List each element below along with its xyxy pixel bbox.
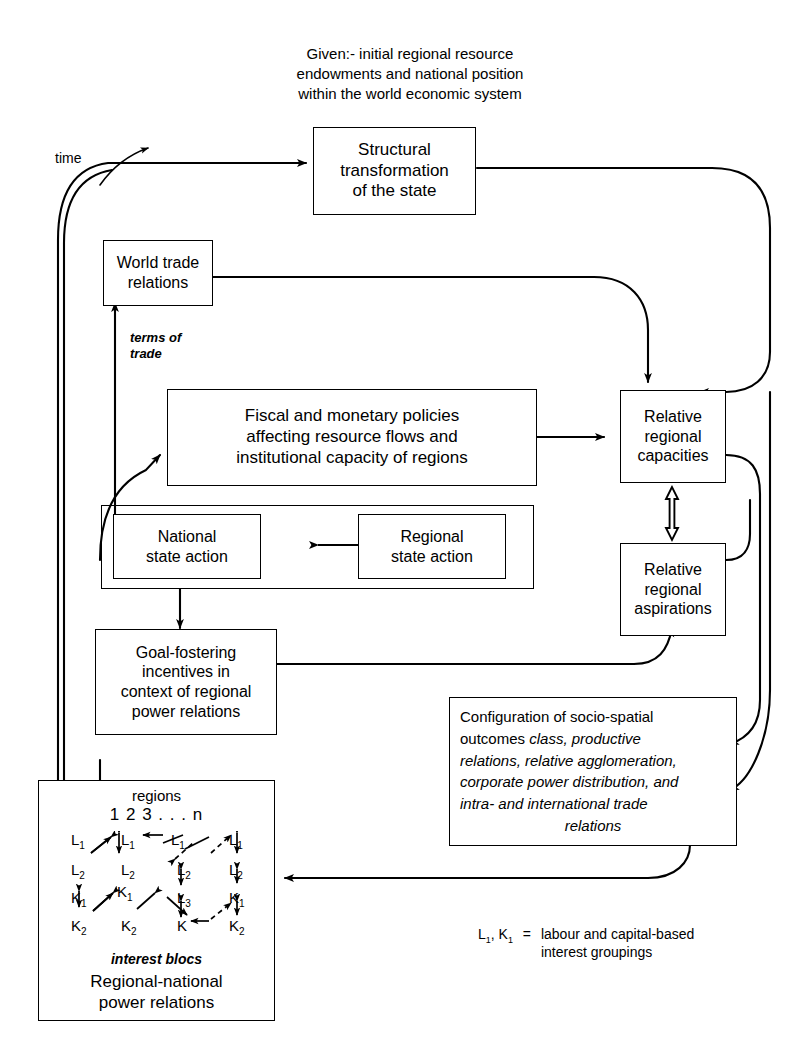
matrix-symbol: K1 bbox=[117, 883, 133, 903]
matrix-symbol: L1 bbox=[71, 831, 85, 851]
matrix-symbol: L2 bbox=[177, 861, 191, 881]
interest-blocs-label: interest blocs bbox=[39, 951, 274, 967]
box-relative-regional-capacities-label: Relative regional capacities bbox=[633, 406, 712, 467]
box-relative-regional-aspirations-label: Relative regional aspirations bbox=[630, 559, 715, 620]
matrix-symbol: L2 bbox=[229, 861, 243, 881]
box-world-trade-relations-label: World trade relations bbox=[113, 252, 203, 293]
regions-title: regions bbox=[39, 787, 274, 804]
configuration-line-1: Configuration of socio-spatial bbox=[460, 706, 726, 728]
configuration-line-3: relations, relative agglomeration, bbox=[460, 750, 726, 772]
configuration-line-4: corporate power distribution, and bbox=[460, 771, 726, 793]
regions-numbers: 1 2 3 . . . n bbox=[39, 805, 274, 825]
box-regional-state-action[interactable]: Regional state action bbox=[358, 514, 506, 579]
configuration-line-2-italic: class, productive bbox=[529, 730, 641, 747]
box-configuration-outcomes[interactable]: Configuration of socio-spatial outcomes … bbox=[449, 697, 737, 846]
matrix-symbol: L2 bbox=[121, 861, 135, 881]
matrix-symbol: L3 bbox=[177, 889, 191, 909]
box-regional-state-action-label: Regional state action bbox=[387, 526, 477, 567]
matrix-symbol: K2 bbox=[71, 917, 87, 937]
interest-blocs-matrix: L1L1L1L1L2L2L2L2K1K1L3K1K2K2KK2 bbox=[59, 831, 259, 949]
box-regional-national-power-relations[interactable]: regions 1 2 3 . . . n bbox=[38, 780, 275, 1021]
diagram-canvas: Given:- initial regional resource endowm… bbox=[0, 0, 811, 1056]
box-fiscal-monetary-policies-label: Fiscal and monetary policies affecting r… bbox=[232, 405, 472, 469]
box-national-state-action[interactable]: National state action bbox=[113, 514, 261, 579]
configuration-line-6: relations bbox=[460, 815, 726, 837]
box-world-trade-relations[interactable]: World trade relations bbox=[103, 240, 213, 306]
matrix-symbol: L2 bbox=[71, 861, 85, 881]
matrix-symbol: K2 bbox=[121, 917, 137, 937]
time-label: time bbox=[55, 150, 81, 166]
box-relative-regional-capacities[interactable]: Relative regional capacities bbox=[620, 390, 726, 483]
box-structural-transformation[interactable]: Structural transformation of the state bbox=[313, 127, 476, 215]
configuration-line-5: intra- and international trade bbox=[460, 793, 726, 815]
legend-equals: = bbox=[523, 926, 531, 942]
box-fiscal-monetary-policies[interactable]: Fiscal and monetary policies affecting r… bbox=[167, 389, 537, 486]
matrix-symbol: K1 bbox=[71, 889, 87, 909]
box-regional-national-power-relations-label: Regional-national power relations bbox=[39, 971, 274, 1014]
matrix-symbol: K2 bbox=[229, 917, 245, 937]
matrix-symbol: L1 bbox=[229, 831, 243, 851]
legend: L1, K1 = labour and capital-based intere… bbox=[478, 925, 694, 961]
legend-symbol-L: L1 bbox=[478, 926, 491, 942]
box-goal-fostering-incentives[interactable]: Goal-fostering incentives in context of … bbox=[95, 629, 277, 735]
legend-symbol-K: K1 bbox=[499, 926, 513, 942]
configuration-line-2-plain: outcomes bbox=[460, 730, 529, 747]
box-structural-transformation-label: Structural transformation of the state bbox=[336, 139, 453, 203]
terms-of-trade-label: terms of trade bbox=[130, 330, 181, 363]
box-relative-regional-aspirations[interactable]: Relative regional aspirations bbox=[620, 543, 726, 636]
matrix-symbol: L1 bbox=[171, 831, 185, 851]
matrix-symbol: K1 bbox=[229, 889, 245, 909]
box-goal-fostering-incentives-label: Goal-fostering incentives in context of … bbox=[117, 642, 256, 722]
configuration-line-2: outcomes class, productive bbox=[460, 728, 726, 750]
matrix-symbol: K bbox=[177, 917, 187, 934]
matrix-symbol: L1 bbox=[121, 831, 135, 851]
legend-text: labour and capital-based interest groupi… bbox=[541, 925, 694, 961]
box-national-state-action-label: National state action bbox=[142, 526, 232, 567]
